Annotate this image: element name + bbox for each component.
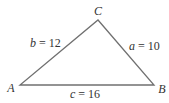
side-a-eq: = [135,39,148,53]
vertex-label-a: A [6,81,15,95]
side-label-b: b = 12 [30,36,61,50]
vertex-label-c: C [94,4,103,18]
triangle-diagram: C A B b = 12 a = 10 c = 16 [0,0,169,103]
side-label-c: c = 16 [70,87,100,101]
side-b-value: 12 [49,36,61,50]
vertex-label-b: B [158,82,166,96]
side-a-value: 10 [148,39,160,53]
side-label-a: a = 10 [129,39,160,53]
side-b-eq: = [36,36,49,50]
side-c-eq: = [75,87,88,101]
side-c-value: 16 [88,87,100,101]
